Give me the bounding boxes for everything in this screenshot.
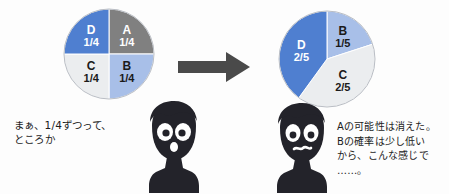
character-left <box>143 100 205 194</box>
pie-after-svg: B1/5C2/5D2/5 <box>278 10 376 108</box>
pie-before-svg: A1/4B1/4C1/4D1/4 <box>63 8 155 100</box>
pie-chart-before: A1/4B1/4C1/4D1/4 <box>63 8 155 100</box>
pie-chart-after: B1/5C2/5D2/5 <box>278 10 376 108</box>
character-right <box>272 102 332 194</box>
speech-text-right: Aの可能性は消えた。 Bの確率は少し低い から、こんな感じで ……。 <box>337 120 447 178</box>
speech-text-left: まぁ、1/4ずつって、 ところか <box>14 118 144 146</box>
transition-arrow-icon <box>178 52 250 82</box>
diagram-canvas: A1/4B1/4C1/4D1/4 B1/5C2/5D2/5 <box>0 0 449 194</box>
